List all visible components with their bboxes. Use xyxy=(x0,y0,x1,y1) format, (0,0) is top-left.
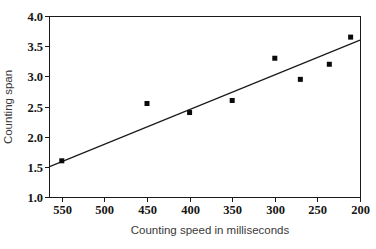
chart-canvas: 5505004504003503002502001.01.52.02.53.03… xyxy=(0,0,376,249)
x-axis-tick-label: 250 xyxy=(308,203,327,217)
data-point-marker xyxy=(187,110,192,115)
scatter-plot-figure: 5505004504003503002502001.01.52.02.53.03… xyxy=(0,0,376,249)
data-point-layer xyxy=(59,35,353,164)
axis-tick-layer: 5505004504003503002502001.01.52.02.53.03… xyxy=(27,10,370,218)
x-axis-tick-label: 200 xyxy=(351,203,370,217)
y-axis-tick-label: 3.0 xyxy=(27,70,43,84)
data-point-marker xyxy=(298,77,303,82)
plot-frame-layer xyxy=(50,17,361,198)
data-point-marker xyxy=(348,35,353,40)
trend-line xyxy=(49,40,360,167)
x-axis-tick-label: 500 xyxy=(95,203,114,217)
y-axis-tick-label: 3.5 xyxy=(27,40,43,54)
x-axis-tick-label: 450 xyxy=(138,203,157,217)
x-axis-tick-label: 550 xyxy=(53,203,72,217)
x-axis-tick-label: 300 xyxy=(266,203,285,217)
y-axis-tick-label: 1.0 xyxy=(27,191,43,205)
trend-line-layer xyxy=(49,40,360,167)
data-point-marker xyxy=(272,56,277,61)
y-axis-tick-label: 2.0 xyxy=(27,131,43,145)
data-point-marker xyxy=(144,101,149,106)
y-axis-title: Counting span xyxy=(2,70,14,144)
y-axis-tick-label: 4.0 xyxy=(27,10,43,24)
x-axis-tick-label: 400 xyxy=(181,203,200,217)
plot-frame xyxy=(50,17,361,198)
x-axis-tick-label: 350 xyxy=(223,203,242,217)
y-axis-tick-label: 1.5 xyxy=(27,161,43,175)
x-axis-title: Counting speed in milliseconds xyxy=(131,224,290,236)
data-point-marker xyxy=(59,158,64,163)
data-point-marker xyxy=(230,98,235,103)
data-point-marker xyxy=(327,62,332,67)
y-axis-tick-label: 2.5 xyxy=(27,101,43,115)
